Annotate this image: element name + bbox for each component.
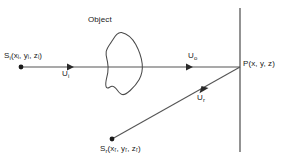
reference-source-args: (xᵣ, yᵣ, zᵣ) (108, 144, 141, 153)
incident-wave-subscript: i (68, 73, 69, 79)
object-wave-subscript: o (194, 55, 197, 61)
point-p-label: P(x, y, z) (243, 60, 275, 68)
ray-diagram-figure: Object Si(xᵢ, yᵢ, zᵢ) Ui Uo Ur P(x, y, z… (0, 0, 285, 164)
diagram-canvas (0, 0, 285, 164)
reference-wave-base: U (197, 93, 203, 102)
illumination-source-label: Si(xᵢ, yᵢ, zᵢ) (4, 52, 42, 60)
reference-source-dot (110, 137, 115, 142)
reference-wave-label: Ur (197, 94, 205, 102)
object-outline-shape (106, 32, 143, 94)
reference-source-label: Sr(xᵣ, yᵣ, zᵣ) (100, 145, 141, 153)
reference-ray-line (112, 67, 240, 139)
object-wave-label: Uo (188, 52, 197, 60)
object-beam-arrowhead (186, 63, 193, 70)
incident-wave-label: Ui (62, 70, 69, 78)
illumination-source-subscript: i (9, 55, 10, 61)
reference-wave-subscript: r (203, 97, 205, 103)
illumination-source-args: (xᵢ, yᵢ, zᵢ) (11, 51, 42, 60)
object-label: Object (88, 16, 112, 24)
point-p-args: (x, y, z) (248, 59, 275, 68)
object-wave-base: U (188, 51, 194, 60)
reference-source-subscript: r (105, 148, 107, 154)
illumination-source-dot (19, 65, 24, 70)
incident-wave-base: U (62, 69, 68, 78)
